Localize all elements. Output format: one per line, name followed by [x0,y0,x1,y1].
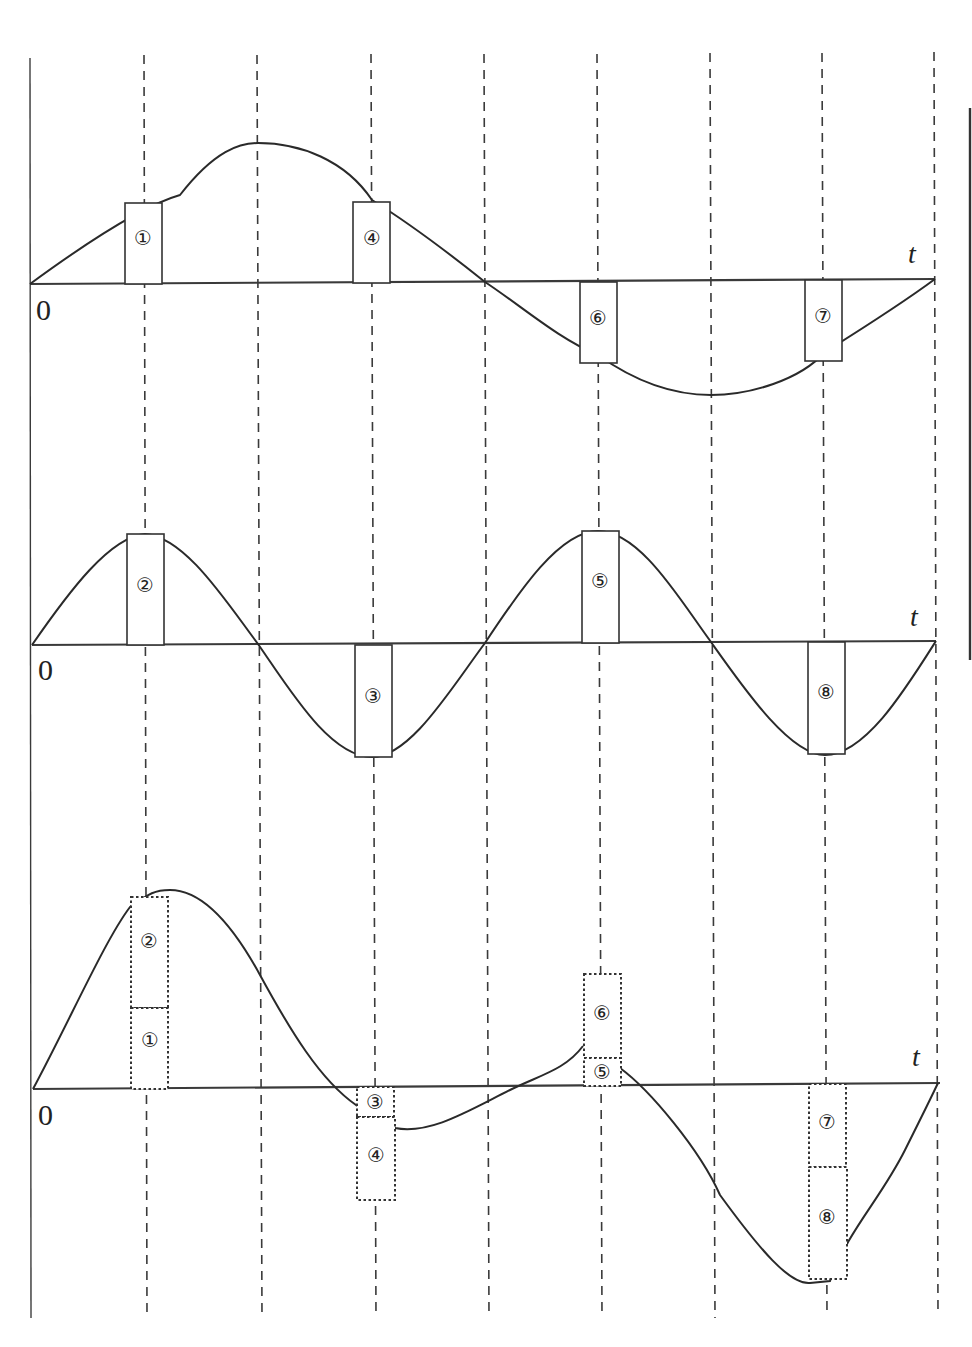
label-8: ⑧ [818,1205,836,1229]
waveform-diagram: ① ④ ⑥ ⑦ 0 t ② ③ ⑤ ⑧ 0 t ② ① ③ ④ ⑥ [0,0,972,1347]
panel-top-wave: ① ④ ⑥ ⑦ 0 t [30,143,935,395]
origin-label: 0 [38,1098,53,1131]
label-7: ⑦ [814,304,832,328]
label-2: ② [136,573,154,597]
panel-sum-wave: ② ① ③ ④ ⑥ ⑤ ⑦ ⑧ 0 t [33,890,940,1283]
label-4: ④ [367,1143,385,1167]
label-8: ⑧ [817,680,835,704]
label-6: ⑥ [593,1001,611,1025]
label-1: ① [134,226,152,250]
label-2: ② [140,929,158,953]
guide-line [597,54,602,1318]
label-1: ① [141,1028,159,1052]
guide-line [257,55,262,1318]
guide-line [934,52,938,1314]
axis-label-t: t [912,1041,921,1072]
label-7: ⑦ [818,1110,836,1134]
axis-label-t: t [908,238,917,269]
label-4: ④ [363,226,381,250]
label-3: ③ [364,684,382,708]
label-5: ⑤ [593,1060,611,1084]
panel-middle-wave: ② ③ ⑤ ⑧ 0 t [32,531,936,757]
left-vertical-line [30,58,31,1318]
origin-label: 0 [38,653,53,686]
guide-line [484,54,489,1318]
fundamental-curve [30,143,935,395]
guide-line [710,53,715,1318]
axis-label-t: t [910,601,919,632]
time-axis [33,1083,940,1089]
label-3: ③ [366,1090,384,1114]
label-6: ⑥ [589,306,607,330]
label-5: ⑤ [591,569,609,593]
origin-label: 0 [36,293,51,326]
